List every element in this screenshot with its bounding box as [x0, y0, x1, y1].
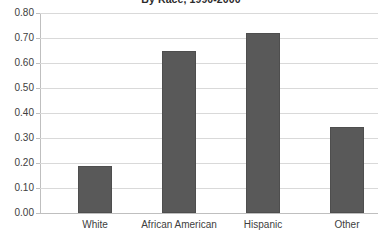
y-axis-tick-label: 0.80	[0, 8, 34, 18]
x-axis-tick-label-other: Other	[307, 219, 382, 231]
gridline	[40, 63, 378, 64]
gridline	[40, 13, 378, 14]
y-axis-tick-label: 0.30	[0, 133, 34, 143]
bar-african-american[interactable]	[162, 51, 196, 214]
bar-chart: By Race, 1990-2000 0.80 0.70 0.60 0.50 0…	[0, 0, 382, 246]
bar-white[interactable]	[78, 166, 112, 214]
gridline	[40, 113, 378, 114]
x-axis-labels: White African American Hispanic Other	[40, 219, 378, 239]
bar-hispanic[interactable]	[246, 33, 280, 213]
y-axis-tick-label: 0.40	[0, 108, 34, 118]
y-axis-tick-label: 0.20	[0, 158, 34, 168]
gridline	[40, 88, 378, 89]
x-axis-tick-label-african-american: African American	[129, 219, 229, 231]
y-axis-tick-label: 0.00	[0, 208, 34, 218]
bar-other[interactable]	[330, 127, 364, 213]
x-axis-line	[40, 213, 378, 214]
x-axis-tick-label-white: White	[55, 219, 135, 231]
y-axis-labels: 0.80 0.70 0.60 0.50 0.40 0.30 0.20 0.10 …	[0, 0, 34, 246]
y-axis-tick-label: 0.70	[0, 33, 34, 43]
gridline	[40, 138, 378, 139]
y-axis-tick-label: 0.50	[0, 83, 34, 93]
y-axis-tick-label: 0.60	[0, 58, 34, 68]
x-axis-tick-label-hispanic: Hispanic	[223, 219, 303, 231]
chart-title: By Race, 1990-2000	[0, 0, 382, 5]
y-axis-tick-label: 0.10	[0, 183, 34, 193]
plot-area	[40, 13, 378, 213]
gridline	[40, 163, 378, 164]
gridline	[40, 38, 378, 39]
